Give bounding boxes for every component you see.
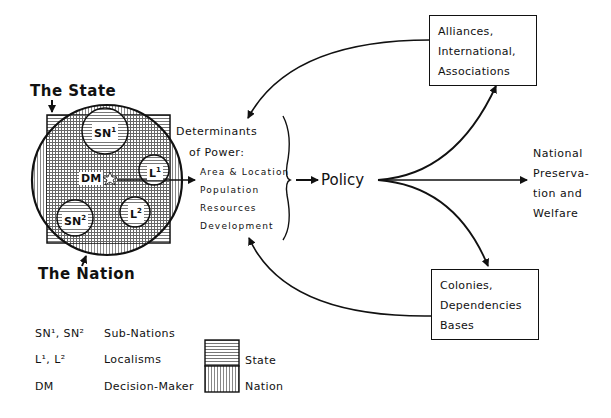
determinant-item: Population [200, 186, 259, 195]
legend-meaning: Localisms [104, 353, 161, 366]
nation-label: The Nation [38, 267, 135, 282]
outcome-line: Welfare [533, 208, 578, 219]
legend-abbr: L¹, L² [35, 353, 65, 366]
outcome-line: National [533, 148, 583, 159]
alliances-box: Alliances, International, Associations [429, 15, 537, 86]
localism-1-tag: L1 [147, 164, 163, 180]
determinant-item: Resources [200, 204, 257, 213]
box-line: Alliances, [438, 22, 528, 42]
determinants-subtitle: of Power: [189, 147, 244, 158]
legend-state-label: State [245, 354, 276, 367]
legend-meaning: Sub-Nations [104, 327, 175, 340]
box-line: Dependencies [440, 296, 530, 316]
state-label: The State [30, 84, 116, 99]
legend-nation-label: Nation [245, 380, 283, 393]
policy-label: Policy [321, 173, 364, 188]
localism-2-tag: L2 [128, 205, 144, 221]
box-line: Colonies, [440, 276, 530, 296]
outcome-line: tion and [533, 188, 582, 199]
sub-nation-1-tag: SN1 [92, 124, 118, 140]
determinant-item: Area & Location [200, 168, 290, 177]
sub-nation-2-tag: SN2 [62, 212, 88, 228]
decision-maker-tag: DM [79, 172, 103, 185]
legend-meaning: Decision-Maker [104, 380, 194, 393]
determinants-title: Determinants [176, 126, 257, 137]
box-line: Bases [440, 316, 530, 336]
determinant-item: Development [200, 222, 274, 231]
box-line: Associations [438, 62, 528, 82]
outcome-line: Preserva- [533, 168, 589, 179]
colonies-box: Colonies, Dependencies Bases [431, 269, 539, 340]
box-line: International, [438, 42, 528, 62]
legend-abbr: DM [35, 380, 54, 393]
legend-abbr: SN¹, SN² [35, 327, 84, 340]
